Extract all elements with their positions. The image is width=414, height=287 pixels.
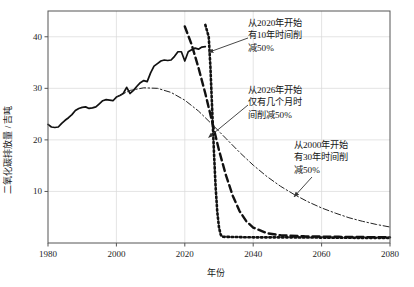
gridlines: [48, 11, 390, 243]
series-line-0: [48, 47, 205, 128]
emissions-line-chart: [0, 0, 414, 287]
annotation-leader-1: [209, 105, 248, 137]
annotation-leader-2: [294, 177, 312, 197]
annotation-2026-scenario: 从2026年开始 仅有几个月时 间削减50%: [248, 84, 302, 121]
annotation-2020-scenario: 从2020年开始 有10年时间削 减50%: [248, 17, 302, 54]
y-tick-label: 10: [20, 186, 42, 196]
x-tick-label: 2020: [176, 249, 194, 259]
series-line-3: [205, 25, 390, 238]
x-tick-label: 2000: [107, 249, 125, 259]
y-tick-label: 20: [20, 135, 42, 145]
annotation-leader-0: [209, 38, 248, 52]
x-axis-title: 年份: [207, 266, 225, 279]
annotation-2000-scenario: 从2000年开始 有30年时间削 减50%: [294, 139, 348, 176]
x-tick-label: 2060: [313, 249, 331, 259]
chart-figure: 19802000202020402060208010203040 年份 二氧化碳…: [0, 0, 414, 287]
x-tick-label: 2080: [381, 249, 399, 259]
y-tick-label: 30: [20, 83, 42, 93]
x-tick-label: 1980: [39, 249, 57, 259]
plot-frame: [48, 11, 390, 243]
data-series-layer: [48, 25, 390, 238]
x-tick-label: 2040: [244, 249, 262, 259]
y-tick-label: 40: [20, 32, 42, 42]
y-axis-title: 二氧化碳排放量 / 吉吨: [1, 105, 14, 193]
